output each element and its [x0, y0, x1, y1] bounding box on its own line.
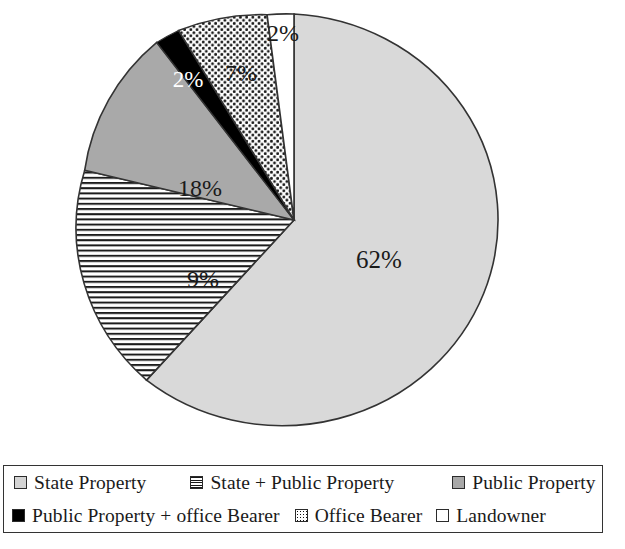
slice-label-landowner: 2%: [267, 20, 299, 46]
legend-label-public-property-office-bearer: Public Property + office Bearer: [32, 506, 280, 526]
legend-label-state-property: State Property: [34, 473, 146, 493]
slice-label-public-property: 18%: [178, 175, 222, 201]
legend-swatch-white-square: [436, 509, 449, 522]
legend-swatch-medium-gray-square: [452, 476, 465, 489]
slice-label-state-public-property: 9%: [187, 266, 219, 292]
legend-row-2: Public Property + office Bearer Office B…: [4, 499, 602, 532]
pie-chart-area: 62% 9% 18% 2% 7% 2%: [0, 0, 625, 450]
slice-label-office-bearer: 7%: [225, 60, 257, 86]
legend-swatch-dotted-square: [295, 509, 308, 522]
legend-item-office-bearer[interactable]: Office Bearer: [295, 506, 423, 526]
pie-chart-figure: 62% 9% 18% 2% 7% 2% State Property State…: [0, 0, 625, 549]
legend-item-state-property[interactable]: State Property: [14, 473, 146, 493]
legend-swatch-light-gray-square: [14, 476, 27, 489]
slice-label-state-property: 62%: [356, 246, 402, 273]
legend-item-public-property[interactable]: Public Property: [452, 473, 595, 493]
legend-label-state-public-property: State + Public Property: [210, 473, 394, 493]
legend-item-landowner[interactable]: Landowner: [436, 506, 546, 526]
legend-row-1: State Property State + Public Property P…: [4, 466, 602, 499]
pie-svg: 62% 9% 18% 2% 7% 2%: [0, 0, 625, 450]
slice-label-public-property-office-bearer: 2%: [173, 67, 204, 92]
chart-legend: State Property State + Public Property P…: [3, 465, 603, 533]
legend-item-public-property-office-bearer[interactable]: Public Property + office Bearer: [12, 506, 280, 526]
legend-label-landowner: Landowner: [456, 506, 546, 526]
legend-label-office-bearer: Office Bearer: [315, 506, 423, 526]
legend-label-public-property: Public Property: [472, 473, 595, 493]
legend-item-state-public-property[interactable]: State + Public Property: [190, 473, 394, 493]
legend-swatch-horizontal-lines-square: [190, 476, 203, 489]
legend-swatch-solid-black-square: [12, 509, 25, 522]
